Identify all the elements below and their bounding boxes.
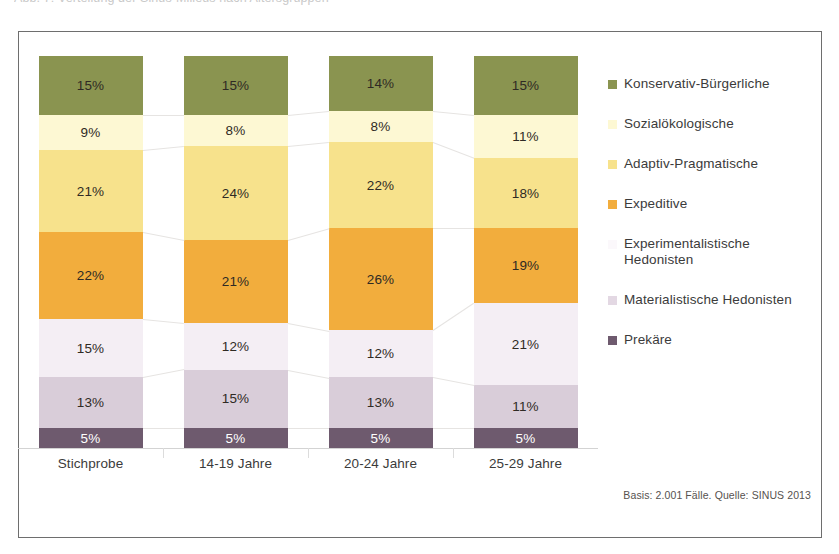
bar-segment[interactable]: 18% bbox=[474, 158, 578, 229]
bar-segment[interactable]: 12% bbox=[184, 323, 288, 370]
segment-value-label: 19% bbox=[512, 258, 540, 273]
legend-item-label: Experimentalistische Hedonisten bbox=[624, 236, 818, 270]
legend-swatch-icon bbox=[608, 200, 617, 209]
legend-item[interactable]: Konservativ-Bürgerliche bbox=[608, 76, 818, 93]
segment-value-label: 15% bbox=[222, 78, 250, 93]
segment-value-label: 12% bbox=[222, 339, 250, 354]
segment-value-label: 21% bbox=[77, 184, 105, 199]
x-axis-category-labels: Stichprobe14-19 Jahre20-24 Jahre25-29 Ja… bbox=[18, 456, 598, 471]
bar-segment[interactable]: 22% bbox=[39, 232, 143, 318]
legend-item[interactable]: Experimentalistische Hedonisten bbox=[608, 236, 818, 270]
bar-segment[interactable]: 15% bbox=[39, 319, 143, 378]
legend-swatch-icon bbox=[608, 80, 617, 89]
segment-value-label: 24% bbox=[222, 186, 250, 201]
stacked-bar[interactable]: 15%11%18%19%21%11%5% bbox=[474, 56, 578, 448]
segment-value-label: 15% bbox=[77, 341, 105, 356]
axis-tick-separator bbox=[453, 448, 454, 458]
legend-swatch-icon bbox=[608, 120, 617, 129]
bar-segment[interactable]: 5% bbox=[39, 428, 143, 448]
stacked-bar[interactable]: 14%8%22%26%12%13%5% bbox=[329, 56, 433, 448]
legend-item[interactable]: Adaptiv-Pragmatische bbox=[608, 156, 818, 173]
segment-value-label: 15% bbox=[77, 78, 105, 93]
x-axis-label: 14-19 Jahre bbox=[163, 456, 308, 471]
segment-value-label: 8% bbox=[226, 123, 246, 138]
stacked-bar[interactable]: 15%9%21%22%15%13%5% bbox=[39, 56, 143, 448]
segment-value-label: 5% bbox=[371, 431, 391, 446]
bar-segment[interactable]: 21% bbox=[184, 240, 288, 322]
bar-segment[interactable]: 8% bbox=[329, 111, 433, 142]
bar-slot: 15%11%18%19%21%11%5% bbox=[453, 56, 598, 448]
plot-area: 15%9%21%22%15%13%5%15%8%24%21%12%15%5%14… bbox=[18, 56, 598, 456]
bar-segment[interactable]: 8% bbox=[184, 115, 288, 146]
legend-item-label: Materialistische Hedonisten bbox=[624, 292, 792, 309]
legend-item-label: Prekäre bbox=[624, 332, 672, 349]
bar-segment[interactable]: 15% bbox=[184, 56, 288, 115]
bar-segment[interactable]: 13% bbox=[39, 377, 143, 428]
chart-legend: Konservativ-BürgerlicheSozialökologische… bbox=[608, 76, 818, 372]
axis-tick-separator bbox=[308, 448, 309, 458]
segment-value-label: 15% bbox=[512, 78, 540, 93]
bar-slot: 15%8%24%21%12%15%5% bbox=[163, 56, 308, 448]
segment-value-label: 5% bbox=[226, 431, 246, 446]
legend-item[interactable]: Expeditive bbox=[608, 196, 818, 213]
legend-item-label: Konservativ-Bürgerliche bbox=[624, 76, 770, 93]
bar-segment[interactable]: 14% bbox=[329, 56, 433, 111]
bar-segment[interactable]: 5% bbox=[184, 428, 288, 448]
bar-slot: 15%9%21%22%15%13%5% bbox=[18, 56, 163, 448]
segment-value-label: 15% bbox=[222, 391, 250, 406]
bar-segment[interactable]: 11% bbox=[474, 115, 578, 158]
legend-swatch-icon bbox=[608, 240, 617, 249]
legend-item-label: Expeditive bbox=[624, 196, 687, 213]
bar-slot: 14%8%22%26%12%13%5% bbox=[308, 56, 453, 448]
segment-value-label: 5% bbox=[516, 431, 536, 446]
bar-segment[interactable]: 21% bbox=[39, 150, 143, 232]
segment-value-label: 26% bbox=[367, 272, 395, 287]
legend-item-label: Adaptiv-Pragmatische bbox=[624, 156, 758, 173]
segment-value-label: 22% bbox=[77, 268, 105, 283]
cut-off-caption: Abb. 7: Verteilung der Sinus-Milieus nac… bbox=[14, 0, 614, 5]
bar-segment[interactable]: 22% bbox=[329, 142, 433, 228]
bar-segment[interactable]: 21% bbox=[474, 303, 578, 385]
bar-segment[interactable]: 15% bbox=[39, 56, 143, 115]
segment-value-label: 13% bbox=[367, 395, 395, 410]
legend-item[interactable]: Prekäre bbox=[608, 332, 818, 349]
segment-value-label: 8% bbox=[371, 119, 391, 134]
legend-swatch-icon bbox=[608, 336, 617, 345]
bar-segment[interactable]: 11% bbox=[474, 385, 578, 428]
source-note: Basis: 2.001 Fälle. Quelle: SINUS 2013 bbox=[623, 489, 811, 501]
legend-item-label: Sozialökologische bbox=[624, 116, 734, 133]
bar-segment[interactable]: 24% bbox=[184, 146, 288, 240]
segment-value-label: 21% bbox=[512, 337, 540, 352]
segment-value-label: 13% bbox=[77, 395, 105, 410]
legend-item[interactable]: Materialistische Hedonisten bbox=[608, 292, 818, 309]
segment-value-label: 5% bbox=[81, 431, 101, 446]
bar-segment[interactable]: 15% bbox=[184, 370, 288, 429]
x-axis-label: Stichprobe bbox=[18, 456, 163, 471]
segment-value-label: 21% bbox=[222, 274, 250, 289]
x-axis-label: 20-24 Jahre bbox=[308, 456, 453, 471]
legend-swatch-icon bbox=[608, 160, 617, 169]
bar-segment[interactable]: 19% bbox=[474, 228, 578, 302]
bar-segment[interactable]: 15% bbox=[474, 56, 578, 115]
bar-segment[interactable]: 13% bbox=[329, 377, 433, 428]
legend-swatch-icon bbox=[608, 296, 617, 305]
stacked-bar[interactable]: 15%8%24%21%12%15%5% bbox=[184, 56, 288, 448]
segment-value-label: 12% bbox=[367, 346, 395, 361]
axis-tick-separator bbox=[163, 448, 164, 458]
segment-value-label: 14% bbox=[367, 76, 395, 91]
bar-segment[interactable]: 12% bbox=[329, 330, 433, 377]
stacked-bar-group: 15%9%21%22%15%13%5%15%8%24%21%12%15%5%14… bbox=[18, 56, 598, 448]
segment-value-label: 18% bbox=[512, 186, 540, 201]
bar-segment[interactable]: 5% bbox=[474, 428, 578, 448]
bar-segment[interactable]: 5% bbox=[329, 428, 433, 448]
segment-value-label: 9% bbox=[81, 125, 101, 140]
segment-value-label: 11% bbox=[512, 129, 539, 144]
bar-segment[interactable]: 9% bbox=[39, 115, 143, 150]
x-axis-label: 25-29 Jahre bbox=[453, 456, 598, 471]
segment-value-label: 22% bbox=[367, 178, 395, 193]
bar-segment[interactable]: 26% bbox=[329, 228, 433, 330]
legend-item[interactable]: Sozialökologische bbox=[608, 116, 818, 133]
segment-value-label: 11% bbox=[512, 399, 539, 414]
